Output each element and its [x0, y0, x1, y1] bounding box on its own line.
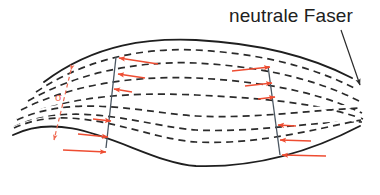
fiber-1 [36, 50, 356, 92]
arrow-right-lower-mid [278, 125, 296, 126]
arrow-right-bottom [282, 155, 326, 156]
beam-top-edge [44, 40, 352, 82]
beam-fibers-lower [14, 104, 362, 140]
neutral-fiber-label: neutrale Faser [229, 5, 353, 27]
beam-bottom-edge [13, 126, 360, 166]
stress-dimension-label: σ [55, 91, 62, 103]
fiber-5b [14, 117, 361, 140]
arrow-left-upper [118, 74, 145, 78]
arrow-left-top [119, 58, 158, 64]
arrow-left-bottom [63, 150, 106, 152]
arrow-left-upper-mid [114, 89, 132, 92]
fiber-2 [28, 63, 359, 101]
arrow-right-lower [280, 140, 311, 141]
